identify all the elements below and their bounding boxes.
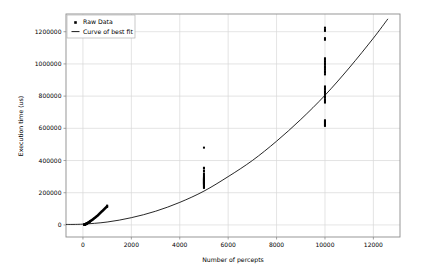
y-tick-label: 0 [58,221,62,228]
y-tick-label: 800000 [39,92,62,99]
x-tick-label: 12000 [364,241,383,248]
scatter-plot: 020004000600080001000012000 020000040000… [0,0,431,276]
data-point [324,119,326,121]
y-axis-title: Execution time (us) [17,96,24,156]
y-tick-label: 1200000 [35,28,62,35]
data-point [203,167,205,169]
data-point [324,37,326,39]
data-point [106,206,108,208]
chart-legend: Raw Data Curve of best fit [67,15,135,38]
data-point [203,147,205,149]
legend-label-raw-data: Raw Data [83,18,113,25]
x-tick-label: 10000 [315,241,334,248]
data-point [324,85,326,87]
x-tick-labels: 020004000600080001000012000 [81,241,383,248]
data-point [203,170,205,172]
x-tick-label: 6000 [221,241,236,248]
data-point [203,172,205,174]
x-tick-label: 2000 [124,241,139,248]
legend-label-best-fit: Curve of best fit [83,28,133,35]
y-tick-label: 200000 [39,189,62,196]
x-tick-label: 0 [81,241,85,248]
y-tick-labels: 020000040000060000080000010000001200000 [35,28,62,228]
legend-marker-raw-data [74,21,77,24]
x-tick-label: 4000 [172,241,187,248]
plot-background [66,14,400,237]
y-tick-label: 1000000 [35,60,62,67]
chart-figure: 020004000600080001000012000 020000040000… [0,0,431,276]
y-tick-label: 400000 [39,157,62,164]
x-axis-title: Number of percepts [202,256,264,264]
y-tick-label: 600000 [39,124,62,131]
x-tick-label: 8000 [269,241,284,248]
data-point [324,27,326,29]
data-point [324,57,326,59]
